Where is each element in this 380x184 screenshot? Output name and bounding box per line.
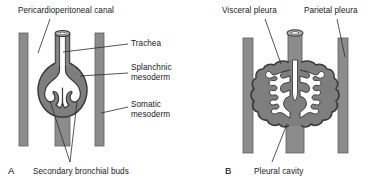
label-parietal-pleura: Parietal pleura — [304, 6, 358, 16]
panel-letter-b: B — [225, 166, 231, 176]
leader-pericardioperitoneal-canal — [38, 19, 50, 53]
panel-b-artwork — [243, 19, 348, 162]
anatomy-figure: Pericardioperitoneal canal Trachea Splan… — [0, 0, 380, 184]
panel-b-central-lumen — [293, 60, 298, 101]
panel-a-artwork — [19, 19, 128, 162]
label-splanchnic-mesoderm: Splanchnic mesoderm — [131, 63, 172, 82]
label-pleural-cavity: Pleural cavity — [254, 167, 303, 177]
panel-a-body-wall-left — [19, 33, 28, 146]
label-visceral-pleura: Visceral pleura — [222, 6, 277, 16]
panel-a-trachea-wall-right — [66, 34, 70, 66]
panel-a-body-wall-right — [95, 33, 104, 146]
leader-somatic-mesoderm — [101, 107, 128, 113]
label-trachea: Trachea — [131, 39, 161, 49]
panel-letter-a: A — [8, 166, 14, 176]
label-secondary-bronchial-buds: Secondary bronchial buds — [33, 167, 129, 177]
leader-visceral-pleura — [265, 19, 281, 64]
figure-artwork — [0, 0, 380, 184]
label-somatic-mesoderm: Somatic mesoderm — [131, 100, 170, 119]
panel-a-tracheal-ring-inner — [59, 32, 66, 35]
label-pericardioperitoneal-canal: Pericardioperitoneal canal — [18, 6, 114, 16]
leader-pleural-cavity — [272, 124, 287, 162]
panel-b-tracheal-ring-inner — [291, 32, 299, 35]
panel-a-trachea-wall — [56, 34, 60, 66]
